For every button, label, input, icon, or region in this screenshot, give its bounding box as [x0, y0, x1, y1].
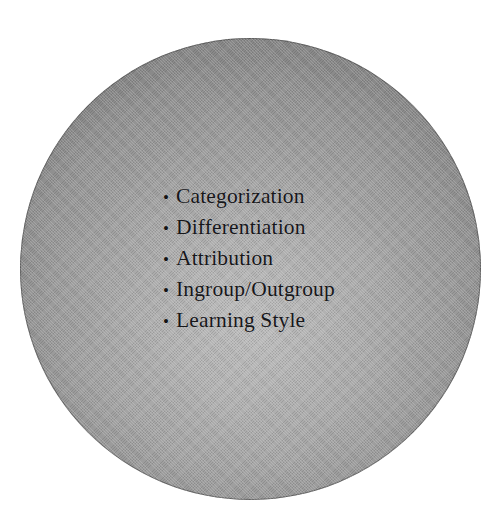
- concept-bullet-list: • Categorization • Differentiation • Att…: [163, 186, 335, 341]
- list-item: • Attribution: [163, 248, 335, 279]
- bullet-icon: •: [163, 251, 176, 268]
- list-item: • Ingroup/Outgroup: [163, 279, 335, 310]
- list-item-label: Differentiation: [176, 217, 306, 239]
- bullet-icon: •: [163, 282, 176, 299]
- list-item: • Categorization: [163, 186, 335, 217]
- bullet-icon: •: [163, 313, 176, 330]
- list-item-label: Categorization: [176, 186, 305, 208]
- list-item-label: Attribution: [176, 248, 273, 270]
- list-item-label: Ingroup/Outgroup: [176, 279, 335, 301]
- list-item: • Differentiation: [163, 217, 335, 248]
- list-item-label: Learning Style: [176, 310, 305, 332]
- bullet-icon: •: [163, 189, 176, 206]
- bullet-icon: •: [163, 220, 176, 237]
- list-item: • Learning Style: [163, 310, 335, 341]
- slide-canvas: • Categorization • Differentiation • Att…: [0, 0, 495, 523]
